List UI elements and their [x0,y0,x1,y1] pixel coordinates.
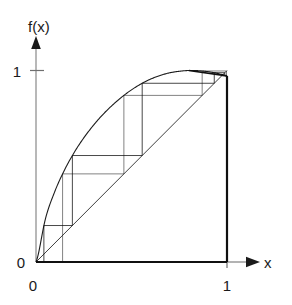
cobweb-diagram-figure: f(x) x 1 0 0 1 [0,0,292,305]
x-axis-label: x [264,254,272,271]
x-tick-label-0: 0 [29,277,37,294]
plot-canvas: f(x) x 1 0 0 1 [0,0,292,305]
y-axis-label: f(x) [28,18,50,35]
x-tick-label-1: 1 [223,277,231,294]
y-tick-label-1: 1 [13,63,21,80]
y-tick-label-0: 0 [17,254,25,271]
